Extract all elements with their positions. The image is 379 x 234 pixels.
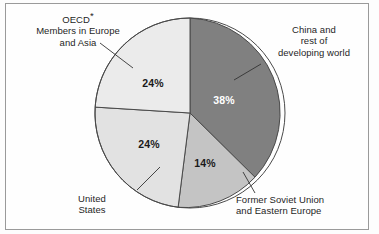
callout-former-soviet-line2: and Eastern Europe xyxy=(236,205,376,216)
callout-label-united-states: United States xyxy=(64,193,120,216)
callout-china-line2: rest of xyxy=(258,35,370,46)
callout-china-line3: developing world xyxy=(258,47,370,58)
slice-value-united-states: 24% xyxy=(138,138,160,150)
footnote-marker-asterisk: * xyxy=(90,10,94,21)
callout-label-china: China and rest of developing world xyxy=(258,24,370,58)
slice-value-former-soviet: 14% xyxy=(194,157,216,169)
callout-label-oecd: OECD* Members in Europe and Asia xyxy=(18,14,138,48)
callout-label-former-soviet: Former Soviet Union and Eastern Europe xyxy=(236,194,376,217)
callout-oecd-line1: OECD xyxy=(62,14,90,25)
callout-united-states-line1: United xyxy=(64,193,120,204)
callout-former-soviet-line1: Former Soviet Union xyxy=(236,194,376,205)
callout-united-states-line2: States xyxy=(64,204,120,215)
callout-china-line1: China and xyxy=(258,24,370,35)
callout-oecd-line2: Members in Europe xyxy=(18,25,138,36)
callout-oecd-line3: and Asia xyxy=(18,37,138,48)
slice-value-china: 38% xyxy=(213,94,235,106)
callout-oecd-line1-wrap: OECD* xyxy=(18,14,138,25)
slice-value-oecd: 24% xyxy=(142,77,164,89)
pie-chart-figure: 38% 14% 24% 24% OECD* Members in Europe … xyxy=(0,0,379,234)
